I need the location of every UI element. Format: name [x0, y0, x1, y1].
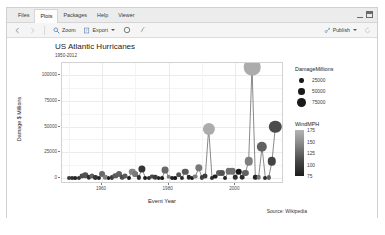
plot-canvas: US Atlantic Hurricanes 1950-2012 Damage … — [7, 38, 377, 219]
y-axis-ticks — [25, 38, 57, 219]
export-button[interactable]: Export — [82, 25, 117, 36]
zoom-button[interactable]: Zoom — [51, 25, 78, 36]
tab-help[interactable]: Help — [92, 9, 113, 22]
y-tick-label: 50000 — [44, 123, 57, 128]
zoom-label: Zoom — [62, 25, 76, 36]
plots-toolbar: Zoom Export — [7, 23, 377, 38]
colorbar-tick-label: 150 — [307, 139, 315, 144]
legend-key-dot — [298, 88, 305, 95]
legend-value-label: 50000 — [312, 89, 325, 94]
y-tick-mark — [58, 126, 60, 127]
legend-size-rows: 250005000075000 — [295, 75, 333, 108]
legend-key-dot — [297, 98, 306, 107]
minimize-icon[interactable] — [357, 17, 363, 18]
tab-viewer[interactable]: Viewer — [113, 9, 139, 22]
chart-title: US Atlantic Hurricanes — [55, 42, 135, 51]
plots-pane: Files Plots Packages Help Viewer — [6, 7, 378, 218]
data-point — [223, 176, 227, 180]
data-point — [229, 168, 236, 175]
x-tick-mark — [234, 183, 235, 185]
magnifier-icon — [53, 27, 60, 34]
legend-wind-mph: WindMPH 75100125150175 — [295, 121, 327, 176]
colorbar-tick-label: 75 — [307, 174, 312, 179]
back-arrow-icon — [14, 27, 21, 34]
export-icon — [84, 27, 91, 34]
x-tick-label: 1980 — [163, 186, 173, 191]
y-tick-label: 25000 — [44, 149, 57, 154]
y-axis-label: Damage $ Millions — [16, 74, 22, 164]
data-point — [160, 176, 164, 180]
remove-plot-button[interactable] — [121, 25, 133, 36]
legend-title-damage: DamageMillions — [295, 66, 333, 72]
x-axis-label: Event Year — [117, 198, 207, 204]
legend-key-box — [295, 88, 308, 95]
previous-plot-button[interactable] — [12, 25, 23, 36]
remove-plot-icon — [123, 26, 131, 34]
chart-caption: Source: Wikipedia — [207, 208, 307, 214]
legend-row: 25000 — [295, 75, 333, 86]
legend-key-box — [295, 78, 308, 82]
plot-panel — [61, 62, 283, 183]
legend-value-label: 25000 — [312, 78, 325, 83]
chart-subtitle: 1950-2012 — [55, 53, 77, 58]
y-tick-mark — [58, 177, 60, 178]
refresh-button[interactable] — [362, 25, 373, 36]
toolbar-right-group: Publish — [322, 25, 373, 36]
chevron-down-icon[interactable] — [111, 29, 115, 31]
legend-key-box — [295, 98, 308, 107]
y-tick-label: 75000 — [44, 97, 57, 102]
legend-title-wind: WindMPH — [295, 121, 327, 127]
next-plot-button[interactable] — [27, 25, 38, 36]
colorbar-tick-label: 175 — [307, 128, 315, 133]
colorbar-tick-label: 125 — [307, 151, 315, 156]
y-tick-mark — [58, 100, 60, 101]
toolbar-divider — [44, 26, 45, 35]
data-point — [182, 168, 189, 175]
legend-key-dot — [299, 78, 303, 82]
data-point — [162, 167, 169, 174]
y-tick-mark — [58, 151, 60, 152]
ggplot-figure: US Atlantic Hurricanes 1950-2012 Damage … — [7, 38, 377, 219]
data-point — [256, 175, 261, 180]
x-tick-mark — [168, 183, 169, 185]
x-tick-label: 1960 — [96, 186, 106, 191]
colorbar-wrap: 75100125150175 — [295, 130, 327, 176]
publish-icon — [324, 27, 331, 34]
data-point — [127, 176, 131, 180]
pane-tab-bar: Files Plots Packages Help Viewer — [7, 8, 377, 23]
x-tick-label: 2000 — [229, 186, 239, 191]
publish-label: Publish — [333, 25, 350, 36]
tab-packages[interactable]: Packages — [58, 9, 92, 22]
tab-plots[interactable]: Plots — [34, 9, 58, 23]
forward-arrow-icon — [29, 27, 36, 34]
legend-damage-millions: DamageMillions 250005000075000 — [295, 66, 333, 108]
legend-row: 75000 — [295, 97, 333, 108]
window-controls — [357, 11, 373, 18]
publish-button[interactable]: Publish — [322, 25, 359, 36]
colorbar-gradient — [295, 130, 304, 176]
legend-row: 50000 — [295, 86, 333, 97]
colorbar-tick-label: 100 — [307, 162, 315, 167]
legend-value-label: 75000 — [312, 100, 325, 105]
data-point — [193, 174, 198, 179]
export-label: Export — [93, 25, 108, 36]
x-tick-mark — [101, 183, 102, 185]
publish-chevron-down-icon[interactable] — [353, 29, 357, 31]
data-series — [62, 63, 282, 182]
colorbar-ticks: 75100125150175 — [307, 130, 327, 176]
clear-plots-button[interactable] — [137, 25, 148, 36]
broom-clear-icon — [139, 26, 146, 34]
maximize-icon[interactable] — [366, 11, 373, 18]
y-tick-mark — [58, 74, 60, 75]
tab-files[interactable]: Files — [13, 9, 34, 22]
y-tick-label: 0 — [54, 174, 57, 179]
y-tick-label: 100000 — [42, 72, 57, 77]
data-point — [244, 62, 261, 75]
refresh-icon — [364, 27, 371, 34]
